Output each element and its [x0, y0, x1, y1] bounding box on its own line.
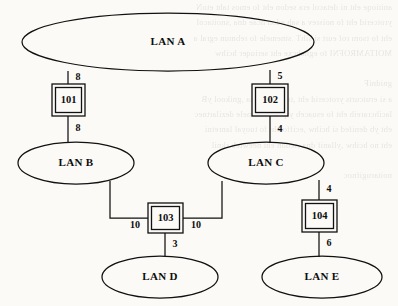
cost-lanc-104: 4 [327, 183, 332, 194]
bridge-104: 104 [302, 200, 337, 232]
link-lanc-103 [183, 181, 222, 218]
cost-lana-102: 5 [278, 70, 283, 81]
lan-c-label: LAN C [248, 156, 283, 168]
network-diagram-figure: anitioqe eht ni detacol era sedon eht fo… [0, 0, 398, 306]
lan-e-label: LAN E [305, 270, 340, 282]
cost-103-land: 3 [173, 238, 178, 249]
port-cost-labels-group: 88541010346 [76, 70, 332, 249]
bridge-102-label: 102 [262, 94, 278, 105]
lan-b: LAN B [18, 142, 134, 184]
cost-lana-101: 8 [76, 71, 81, 82]
cost-lanc-103: 10 [191, 219, 201, 230]
cost-104-lane: 6 [327, 237, 332, 248]
lan-d-label: LAN D [142, 270, 177, 282]
bridge-101-label: 101 [61, 94, 77, 105]
cost-101-lanb: 8 [76, 122, 81, 133]
lan-d: LAN D [102, 256, 218, 298]
cost-lanb-103: 10 [130, 219, 140, 230]
lan-e: LAN E [262, 256, 382, 298]
bridge-101: 101 [52, 84, 85, 116]
bridge-102: 102 [252, 84, 288, 116]
bridge-nodes-group: 101102103104 [52, 84, 337, 233]
lan-c: LAN C [208, 142, 324, 184]
bridge-104-label: 104 [312, 210, 329, 221]
lan-b-label: LAN B [59, 156, 94, 168]
link-lanb-103 [110, 181, 148, 218]
topology-canvas: LAN ALAN BLAN CLAN DLAN E 101102103104 8… [0, 0, 398, 306]
lan-a: LAN A [22, 13, 314, 71]
bridge-103: 103 [148, 203, 183, 233]
lan-a-label: LAN A [151, 35, 186, 47]
bridge-103-label: 103 [158, 212, 174, 223]
cost-102-lanc: 4 [278, 123, 283, 134]
lan-segments-group: LAN ALAN BLAN CLAN DLAN E [18, 13, 382, 298]
